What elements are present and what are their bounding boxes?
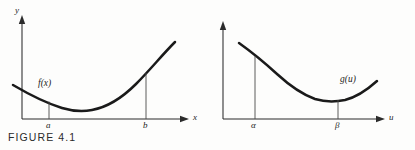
tick-label-a: a — [46, 121, 51, 130]
plot-svg-right — [207, 0, 415, 130]
figure-container: y x f(x) a b u g(u) α β FIGURE 4.1 — [0, 0, 415, 150]
curve-g-of-u — [239, 43, 377, 101]
x-axis-label-left: x — [193, 113, 197, 122]
plot-panel-right: u g(u) α β — [207, 0, 415, 130]
x-axis-arrow-left — [180, 116, 189, 122]
y-axis-arrow-right — [220, 21, 226, 30]
tick-label-beta: β — [335, 121, 339, 130]
y-axis-arrow-left — [19, 15, 25, 24]
x-axis-label-right: u — [389, 113, 394, 122]
y-axis-label-left: y — [15, 6, 19, 15]
plot-svg-left — [0, 0, 208, 130]
plot-panel-left: y x f(x) a b — [0, 0, 208, 130]
figure-caption: FIGURE 4.1 — [8, 131, 76, 143]
tick-label-b: b — [143, 121, 148, 130]
tick-label-alpha: α — [251, 121, 256, 130]
curve-f-of-x — [13, 42, 175, 111]
function-label-f: f(x) — [38, 79, 51, 89]
x-axis-arrow-right — [376, 116, 385, 122]
function-label-g: g(u) — [340, 75, 356, 85]
